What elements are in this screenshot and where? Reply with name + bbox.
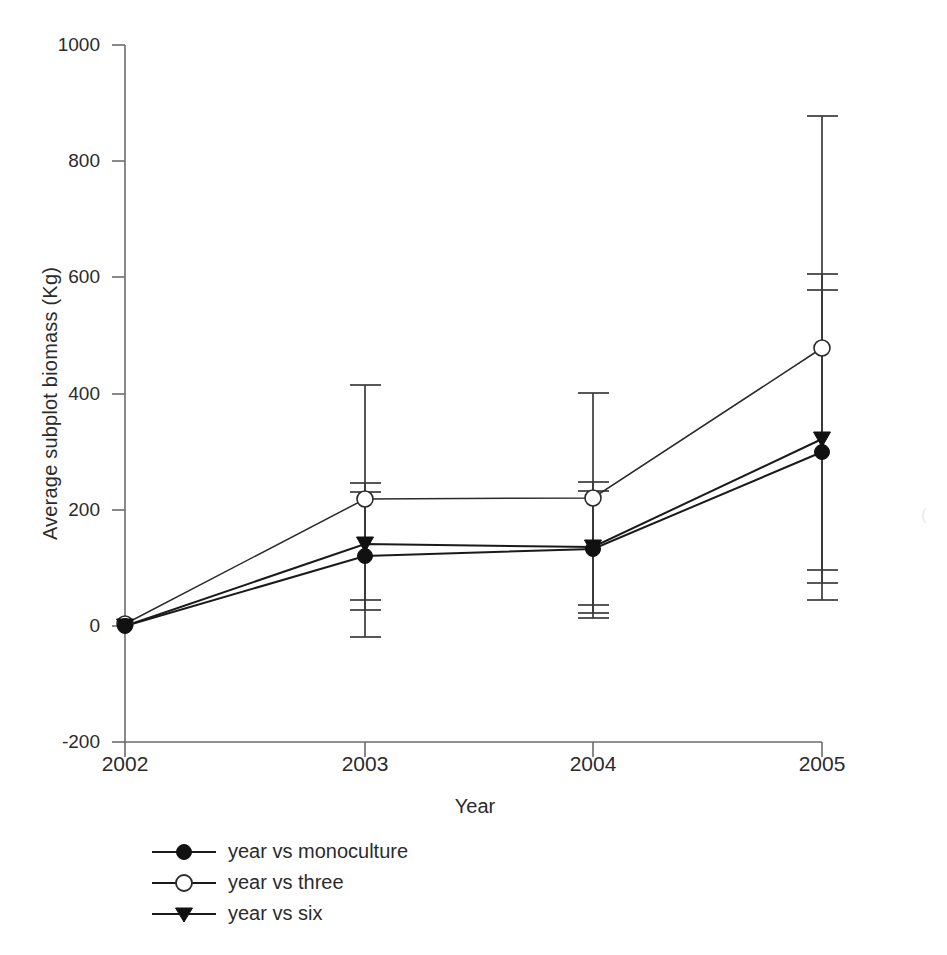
axis-spines — [125, 45, 822, 742]
legend-item-year-vs-monoculture: year vs monoculture — [150, 836, 480, 867]
filled-triangle-marker-icon — [150, 903, 218, 925]
series-markers-year-vs-monoculture — [118, 445, 830, 634]
series-line-year-vs-three — [125, 348, 822, 624]
series-line-year-vs-monoculture — [125, 452, 822, 626]
error-bar-2003 — [350, 385, 381, 637]
filled-circle-marker-icon — [150, 841, 218, 863]
chart-figure: Average subplot biomass (Kg) Year 1000 8… — [0, 0, 947, 955]
legend-label-year-vs-three: year vs three — [218, 871, 344, 894]
open-circle-marker-icon — [150, 872, 218, 894]
x-axis-ticks — [125, 742, 822, 757]
legend-item-year-vs-three: year vs three — [150, 867, 480, 898]
legend-label-year-vs-monoculture: year vs monoculture — [218, 840, 408, 863]
error-bar-2005 — [807, 116, 838, 600]
chart-legend: year vs monoculture year vs three year v… — [150, 836, 480, 929]
y-axis-ticks — [112, 45, 125, 742]
legend-item-year-vs-six: year vs six — [150, 898, 480, 929]
series-markers-year-vs-six — [117, 432, 831, 634]
legend-label-year-vs-six: year vs six — [218, 902, 322, 925]
series-line-year-vs-six — [125, 439, 822, 626]
page-edge-artifact: ( — [921, 505, 927, 525]
plot-area — [0, 0, 947, 800]
